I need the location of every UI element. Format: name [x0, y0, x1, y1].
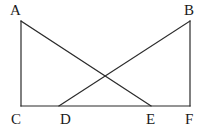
vertex-label-c: C [11, 112, 21, 127]
geometry-canvas [0, 0, 208, 134]
vertex-label-e: E [146, 112, 155, 127]
segment-ae [21, 21, 151, 106]
vertex-label-a: A [10, 3, 21, 18]
vertex-label-b: B [184, 3, 194, 18]
segment-bd [59, 21, 190, 106]
geometry-diagram: A B C D E F [0, 0, 208, 134]
vertex-label-f: F [185, 112, 193, 127]
vertex-label-d: D [60, 112, 71, 127]
